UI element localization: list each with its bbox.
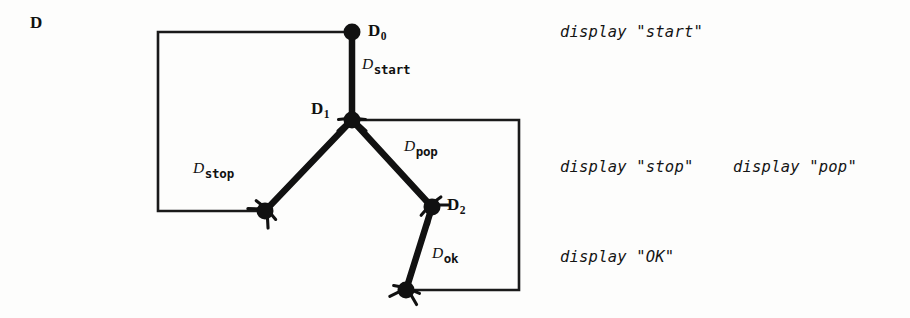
node-label-d1-sub: 1 xyxy=(324,108,330,120)
edge-label-stop-main: D xyxy=(193,159,204,176)
node-label-d0-main: D xyxy=(368,21,380,40)
left-return-path xyxy=(158,32,352,211)
node-d1 xyxy=(344,112,361,129)
node-ok xyxy=(398,282,415,299)
node-d0 xyxy=(344,24,361,41)
edge-label-start: Dstart xyxy=(362,56,410,77)
node-label-d2: D2 xyxy=(447,196,466,216)
edge-label-ok-main: D xyxy=(432,244,443,261)
action-text-ok: display "OK" xyxy=(560,250,674,266)
node-label-d0-sub: 0 xyxy=(381,30,387,42)
node-label-d2-sub: 2 xyxy=(460,204,466,216)
node-d2 xyxy=(424,199,441,216)
scanned-figure-page: D D0 D1 D2 Dstart Dstop Dpop Dok display… xyxy=(0,0,910,318)
edge-label-start-main: D xyxy=(362,55,373,72)
action-text-stop: display "stop" xyxy=(560,160,693,176)
edge-label-ok-sub: ok xyxy=(444,251,459,266)
action-text-start: display "start" xyxy=(560,25,703,41)
node-label-d1-main: D xyxy=(311,99,323,118)
edge-label-pop-main: D xyxy=(404,137,415,154)
node-stop xyxy=(257,203,274,220)
edge-label-start-sub: start xyxy=(374,62,411,77)
edge-label-stop-sub: stop xyxy=(205,166,234,181)
action-text-pop: display "pop" xyxy=(733,160,857,176)
edge-label-pop-sub: pop xyxy=(416,144,438,159)
edge-label-stop: Dstop xyxy=(193,160,234,181)
node-label-d2-main: D xyxy=(447,195,459,214)
edge-label-ok: Dok xyxy=(432,245,458,266)
node-label-d0: D0 xyxy=(368,22,387,42)
edge-label-pop: Dpop xyxy=(404,138,438,159)
node-label-d1: D1 xyxy=(311,100,330,120)
figure-corner-label: D xyxy=(30,14,42,31)
